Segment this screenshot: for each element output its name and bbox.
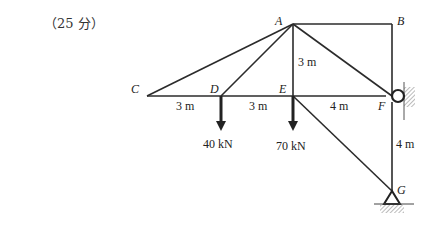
- dim-CD: 3 m: [176, 99, 195, 113]
- dim-DE: 3 m: [249, 99, 268, 113]
- node-label-G: G: [397, 183, 406, 197]
- node-label-F: F: [377, 99, 386, 113]
- node-label-A: A: [274, 14, 283, 28]
- load-label-D: 40 kN: [203, 137, 233, 151]
- node-label-B: B: [397, 14, 405, 28]
- load-label-E: 70 kN: [276, 139, 306, 153]
- node-label-C: C: [131, 82, 140, 96]
- node-label-D: D: [209, 82, 219, 96]
- dim-AE: 3 m: [298, 55, 317, 69]
- node-label-E: E: [278, 82, 287, 96]
- load-arrow-D: [216, 96, 226, 131]
- dim-EF: 4 m: [330, 99, 349, 113]
- pin-support-G: [374, 191, 414, 213]
- roller-support-F: [392, 82, 415, 120]
- dim-FG: 4 m: [396, 137, 415, 151]
- truss-diagram: A B C D E F G 3 m 3 m 4 m 3 m 4 m 40 kN …: [0, 0, 421, 227]
- member-AC: [147, 24, 293, 96]
- load-arrow-E: [288, 96, 298, 131]
